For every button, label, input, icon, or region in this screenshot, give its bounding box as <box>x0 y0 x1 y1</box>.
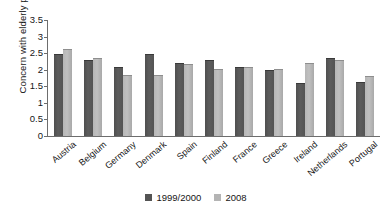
bar-group <box>199 20 229 136</box>
x-axis-line <box>47 136 380 137</box>
x-axis-label-france: France <box>232 140 259 165</box>
x-axis-label-slot: Portugal <box>350 138 380 190</box>
bar-group <box>290 20 320 136</box>
bar-group <box>350 20 380 136</box>
y-axis-tick-label: 0.5 <box>30 115 43 125</box>
bar-group <box>108 20 138 136</box>
y-axis-title: Concern with elderly people <box>17 0 28 100</box>
dark-gray-square-icon <box>145 194 152 201</box>
x-axis-label-greece: Greece <box>261 140 289 166</box>
y-axis-tick-mark <box>44 86 47 87</box>
x-axis-label-finland: Finland <box>200 140 228 166</box>
bar-germany-2008 <box>123 75 132 136</box>
y-axis-tick-mark <box>44 136 47 137</box>
bar-denmark-2008 <box>154 75 163 136</box>
light-gray-square-icon <box>214 194 221 201</box>
bar-germany-1999-2000 <box>114 67 123 136</box>
y-axis-tick-mark <box>44 53 47 54</box>
bar-finland-2008 <box>214 69 223 136</box>
y-axis-tick-label: 1.5 <box>30 82 43 92</box>
bar-group <box>259 20 289 136</box>
bar-spain-1999-2000 <box>175 63 184 136</box>
bar-greece-1999-2000 <box>265 70 274 136</box>
bar-france-1999-2000 <box>235 67 244 136</box>
bar-finland-1999-2000 <box>205 60 214 136</box>
x-axis-labels: AustriaBelgiumGermanyDenmarkSpainFinland… <box>48 138 380 190</box>
x-axis-label-spain: Spain <box>175 140 198 162</box>
chart-legend: 1999/20002008 <box>0 193 392 203</box>
bar-group <box>320 20 350 136</box>
bar-group <box>229 20 259 136</box>
x-axis-label-germany: Germany <box>104 140 138 171</box>
bar-group <box>48 20 78 136</box>
bar-chart-figure: Concern with elderly people 3.532.521.51… <box>0 0 392 213</box>
x-axis-label-slot: France <box>229 138 259 190</box>
y-axis-tick-mark <box>44 70 47 71</box>
bar-portugal-2008 <box>365 76 374 136</box>
bar-portugal-1999-2000 <box>356 82 365 136</box>
bar-france-2008 <box>244 67 253 136</box>
x-axis-label-slot: Greece <box>259 138 289 190</box>
x-axis-label-portugal: Portugal <box>348 140 379 168</box>
x-axis-label-slot: Finland <box>199 138 229 190</box>
legend-item-1999-2000: 1999/2000 <box>145 193 201 203</box>
y-axis-tick-mark <box>44 20 47 21</box>
bar-austria-2008 <box>63 49 72 136</box>
legend-label: 2008 <box>225 193 246 203</box>
y-axis-tick-mark <box>44 119 47 120</box>
x-axis-label-denmark: Denmark <box>135 140 169 170</box>
bar-denmark-1999-2000 <box>145 54 154 136</box>
x-axis-label-austria: Austria <box>51 140 78 165</box>
bar-ireland-2008 <box>305 63 314 136</box>
legend-label: 1999/2000 <box>156 193 201 203</box>
bar-netherlands-2008 <box>335 60 344 136</box>
y-axis-tick-label: 1 <box>38 98 43 108</box>
x-axis-label-slot: Netherlands <box>320 138 350 190</box>
y-axis-tick-label: 3 <box>38 32 43 42</box>
bar-belgium-2008 <box>93 58 102 136</box>
y-axis-tick-mark <box>44 103 47 104</box>
bar-group <box>139 20 169 136</box>
y-axis-tick-label: 0 <box>38 131 43 141</box>
bar-belgium-1999-2000 <box>84 60 93 136</box>
bar-austria-1999-2000 <box>54 54 63 136</box>
bar-ireland-1999-2000 <box>296 83 305 136</box>
y-axis-tick-label: 2 <box>38 65 43 75</box>
bar-netherlands-1999-2000 <box>326 58 335 136</box>
x-axis-label-slot: Spain <box>169 138 199 190</box>
bars-layer <box>48 20 380 136</box>
x-axis-label-slot: Austria <box>48 138 78 190</box>
bar-greece-2008 <box>274 69 283 136</box>
y-axis-tick-mark <box>44 37 47 38</box>
y-axis-tick-label: 2.5 <box>30 48 43 58</box>
y-axis-tick-label: 3.5 <box>30 15 43 25</box>
bar-group <box>78 20 108 136</box>
bar-spain-2008 <box>184 64 193 136</box>
x-axis-label-slot: Denmark <box>139 138 169 190</box>
bar-group <box>169 20 199 136</box>
legend-item-2008: 2008 <box>214 193 246 203</box>
plot-area: 3.532.521.510.50 <box>47 20 380 136</box>
